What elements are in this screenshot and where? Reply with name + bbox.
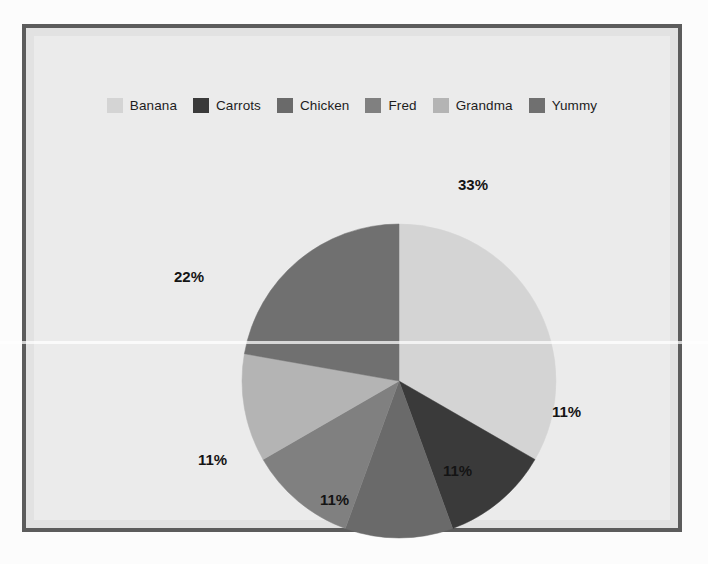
legend-label-grandma: Grandma	[456, 98, 513, 113]
pie-label-yummy: 22%	[174, 268, 204, 285]
legend-item-grandma[interactable]: Grandma	[433, 98, 513, 113]
legend-item-chicken[interactable]: Chicken	[277, 98, 349, 113]
legend-item-fred[interactable]: Fred	[365, 98, 416, 113]
legend-label-banana: Banana	[130, 98, 177, 113]
legend-label-carrots: Carrots	[216, 98, 261, 113]
legend-label-chicken: Chicken	[300, 98, 349, 113]
legend-swatch-chicken	[277, 98, 293, 113]
legend-swatch-fred	[365, 98, 381, 113]
pie-chart-svg	[239, 221, 559, 541]
legend-item-carrots[interactable]: Carrots	[193, 98, 261, 113]
legend-item-yummy[interactable]: Yummy	[529, 98, 598, 113]
screenshot-canvas: Banana Carrots Chicken Fred Grandma	[0, 0, 708, 564]
chart-panel: Banana Carrots Chicken Fred Grandma	[34, 36, 670, 520]
chart-frame: Banana Carrots Chicken Fred Grandma	[22, 24, 682, 532]
pie-label-banana: 33%	[458, 176, 488, 193]
pie-label-carrots: 11%	[552, 403, 581, 420]
legend-label-yummy: Yummy	[552, 98, 598, 113]
legend-swatch-yummy	[529, 98, 545, 113]
pie-chart	[239, 221, 559, 541]
pie-label-chicken: 11%	[443, 462, 472, 479]
pie-label-grandma: 11%	[198, 451, 227, 468]
legend-swatch-carrots	[193, 98, 209, 113]
chart-legend: Banana Carrots Chicken Fred Grandma	[34, 98, 670, 113]
legend-label-fred: Fred	[388, 98, 416, 113]
legend-item-banana[interactable]: Banana	[107, 98, 177, 113]
legend-swatch-banana	[107, 98, 123, 113]
pie-slice-yummy[interactable]	[244, 224, 399, 381]
pie-slice-group	[242, 224, 556, 538]
legend-swatch-grandma	[433, 98, 449, 113]
pie-label-fred: 11%	[320, 491, 349, 508]
